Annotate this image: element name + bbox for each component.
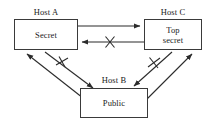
host-c-classification: Top secret — [163, 25, 183, 45]
host-a-classification: Secret — [35, 30, 57, 40]
host-a-box: Secret — [14, 19, 78, 50]
flow-arrow-c-to-a — [82, 37, 144, 48]
security-flow-diagram: Host A Secret Host C Top secret Host B P… — [0, 0, 222, 126]
host-b-box: Public — [80, 88, 148, 118]
host-b-classification: Public — [103, 98, 125, 108]
host-c-box: Top secret — [144, 19, 202, 50]
blocked-mark-c-to-b — [148, 58, 160, 69]
host-c-label: Host C — [144, 7, 202, 17]
flow-arrow-b-to-a — [27, 54, 83, 98]
host-a-label: Host A — [14, 7, 78, 17]
host-b-label: Host B — [80, 75, 148, 85]
